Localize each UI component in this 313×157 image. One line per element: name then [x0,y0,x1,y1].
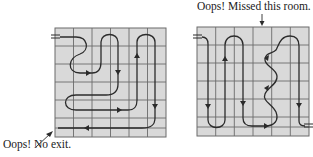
right-grid [193,14,313,136]
annotation-no-exit: Oops! No exit. [3,138,71,150]
annotation-missed-room: Oops! Missed this room. [197,0,311,12]
diagram-canvas [0,0,313,157]
left-grid [36,28,166,147]
